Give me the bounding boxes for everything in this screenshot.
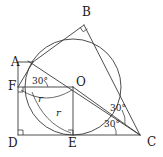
geometry-figure: A B C D E F O r r 30° 30° 30°: [0, 0, 163, 157]
arc-radius-FO: [21, 90, 72, 98]
vertex-label-A: A: [11, 56, 20, 68]
vertex-label-B: B: [82, 6, 91, 18]
right-angle-at-D-icon: [18, 130, 23, 135]
radius-label-horizontal: r: [38, 94, 43, 104]
vertex-label-D: D: [8, 137, 18, 149]
angle-label-lower-at-C: 30°: [104, 120, 120, 129]
vertex-label-O: O: [76, 76, 86, 88]
right-angle-at-F-icon: [18, 87, 23, 92]
vertex-label-E: E: [68, 137, 77, 149]
angle-label-at-F: 30°: [32, 77, 48, 86]
vertex-label-F: F: [8, 80, 16, 92]
vertex-label-C: C: [147, 136, 156, 148]
right-angle-at-B-icon: [80, 28, 87, 32]
segment-AB: [33, 25, 84, 62]
radius-label-vertical: r: [56, 108, 61, 118]
angle-label-upper-at-C: 30°: [110, 104, 126, 113]
